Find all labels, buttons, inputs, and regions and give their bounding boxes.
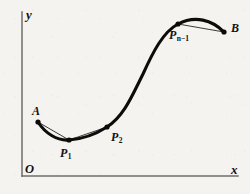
point-label-a: A — [32, 105, 40, 117]
point-label-p1: P1 — [60, 147, 71, 159]
point-marker-p2 — [104, 124, 109, 129]
point-marker-pn1 — [175, 21, 180, 26]
figure-canvas — [0, 0, 250, 194]
point-label-b: B — [231, 22, 239, 34]
y-axis-label: y — [26, 8, 32, 21]
point-label-p2: P2 — [111, 131, 122, 143]
smooth-curve — [38, 19, 224, 140]
point-marker-a — [35, 119, 40, 124]
figure-container: y x O A P1 P2 Pn−1 B — [0, 0, 250, 194]
point-marker-b — [221, 29, 226, 34]
curve-point-markers — [35, 21, 226, 142]
origin-label: O — [25, 163, 34, 176]
x-axis-label: x — [231, 163, 238, 176]
point-label-pn-minus-1: Pn−1 — [169, 29, 189, 41]
point-marker-p1 — [66, 137, 71, 142]
